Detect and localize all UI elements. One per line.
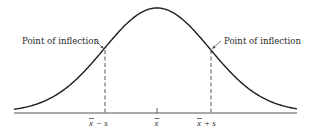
svg-text:− s: − s — [96, 118, 108, 128]
svg-text:+ s: + s — [204, 118, 216, 128]
tick-label-mean-minus-s: x − s — [88, 118, 108, 128]
svg-text:x: x — [154, 118, 159, 128]
left-inflection-label: Point of inflection — [22, 36, 99, 46]
normal-curve-diagram: Point of inflection Point of inflection … — [0, 0, 311, 136]
tick-label-mean-plus-s: x + s — [196, 118, 216, 128]
right-inflection-label: Point of inflection — [224, 36, 301, 46]
right-inflection-arrow-icon — [212, 41, 221, 49]
svg-text:x: x — [196, 118, 201, 128]
tick-label-mean: x — [154, 118, 160, 128]
svg-text:x: x — [88, 118, 93, 128]
bell-curve — [14, 8, 297, 109]
